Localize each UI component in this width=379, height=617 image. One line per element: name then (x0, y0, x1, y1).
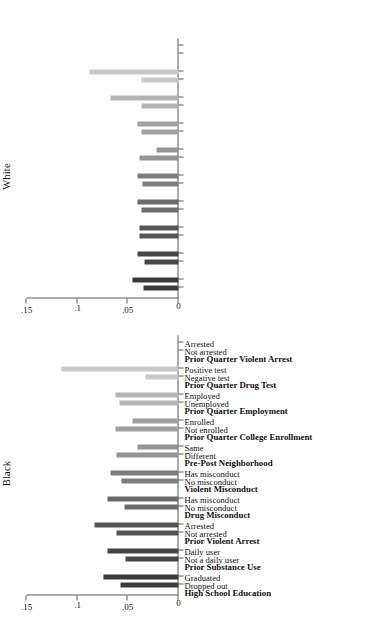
category-tick (178, 183, 183, 184)
bar (141, 129, 178, 134)
axis-tick-label: .1 (72, 304, 82, 311)
axis-tick (126, 298, 127, 303)
category-label: Arrested (184, 521, 214, 530)
category-tick (178, 550, 183, 551)
category-tick (178, 480, 183, 481)
category-tick (178, 131, 183, 132)
panel-title-white: White (0, 32, 11, 320)
category-label: Graduated (184, 573, 220, 582)
category-tick (178, 402, 183, 403)
bar (141, 207, 178, 212)
bar (115, 392, 178, 397)
bar (137, 173, 178, 178)
category-label: Has misconduct (184, 469, 239, 478)
category-ticks-black (178, 335, 183, 595)
category-tick (178, 53, 183, 54)
panel-black: Black 0.05.1.15 (0, 329, 203, 617)
panel-title-black: Black (0, 329, 11, 617)
category-tick (178, 227, 183, 228)
bar (139, 233, 178, 238)
category-labels: High School EducationDropped outGraduate… (184, 329, 374, 595)
bar (94, 522, 178, 527)
bar (156, 147, 178, 152)
category-tick (178, 558, 183, 559)
category-tick (178, 279, 183, 280)
category-tick (178, 105, 183, 106)
plot-area-black: 0.05.1.15 (26, 335, 178, 595)
bar (107, 496, 178, 501)
category-tick (178, 157, 183, 158)
axis-tick (25, 595, 26, 600)
category-tick (178, 149, 183, 150)
bar (61, 366, 178, 371)
bar (139, 225, 178, 230)
category-tick (178, 123, 183, 124)
category-tick (178, 71, 183, 72)
category-tick (178, 524, 183, 525)
category-tick (178, 472, 183, 473)
bar (132, 418, 178, 423)
bar (139, 155, 178, 160)
axis-tick-label: .15 (21, 601, 31, 612)
category-label: Same (184, 443, 203, 452)
category-label: Daily user (184, 547, 220, 556)
category-tick (178, 45, 183, 46)
axis-tick-label: .05 (122, 601, 132, 612)
bar (145, 374, 178, 379)
category-tick (178, 350, 183, 351)
bar (137, 251, 178, 256)
category-tick (178, 498, 183, 499)
bar (110, 95, 178, 100)
category-tick (178, 261, 183, 262)
category-tick (178, 376, 183, 377)
category-tick (178, 576, 183, 577)
axis-tick-label: 0 (173, 304, 183, 309)
bar-chart-figure: Black 0.05.1.15 White 0.05.1.15 High Sch… (0, 0, 379, 617)
plot-area-white: 0.05.1.15 (26, 38, 178, 298)
category-tick (178, 428, 183, 429)
bar (116, 530, 178, 535)
bars-black (26, 335, 178, 595)
category-ticks-white (178, 38, 183, 298)
category-tick (178, 201, 183, 202)
category-tick (178, 420, 183, 421)
bar (110, 470, 178, 475)
axis-tick (126, 595, 127, 600)
bar (89, 69, 178, 74)
category-tick (178, 368, 183, 369)
bar (143, 285, 178, 290)
bar (103, 574, 178, 579)
category-tick (178, 79, 183, 80)
category-tick (178, 394, 183, 395)
bars-white (26, 38, 178, 298)
axis-tick-label: .1 (72, 601, 82, 608)
category-tick (178, 175, 183, 176)
category-tick (178, 584, 183, 585)
category-tick (178, 532, 183, 533)
bar (137, 199, 178, 204)
category-tick (178, 454, 183, 455)
axis-tick-label: .15 (21, 304, 31, 315)
category-label: Employed (184, 391, 219, 400)
bar (144, 259, 178, 264)
bar (137, 121, 178, 126)
category-label: Has misconduct (184, 495, 239, 504)
category-tick (178, 235, 183, 236)
bar (132, 277, 178, 282)
bar (141, 103, 178, 108)
panel-white: White 0.05.1.15 (0, 32, 203, 320)
category-tick (178, 342, 183, 343)
bar (115, 426, 178, 431)
axis-tick-label: 0 (173, 601, 183, 606)
bar (119, 400, 178, 405)
bar (142, 181, 178, 186)
bar (116, 452, 178, 457)
category-label: Positive test (184, 365, 226, 374)
category-tick (178, 97, 183, 98)
rotated-figure-wrapper: Black 0.05.1.15 White 0.05.1.15 High Sch… (0, 0, 379, 617)
bar (137, 444, 178, 449)
category-tick (178, 209, 183, 210)
bar (120, 582, 178, 587)
category-tick (178, 287, 183, 288)
axis-tick-label: .05 (122, 304, 132, 315)
